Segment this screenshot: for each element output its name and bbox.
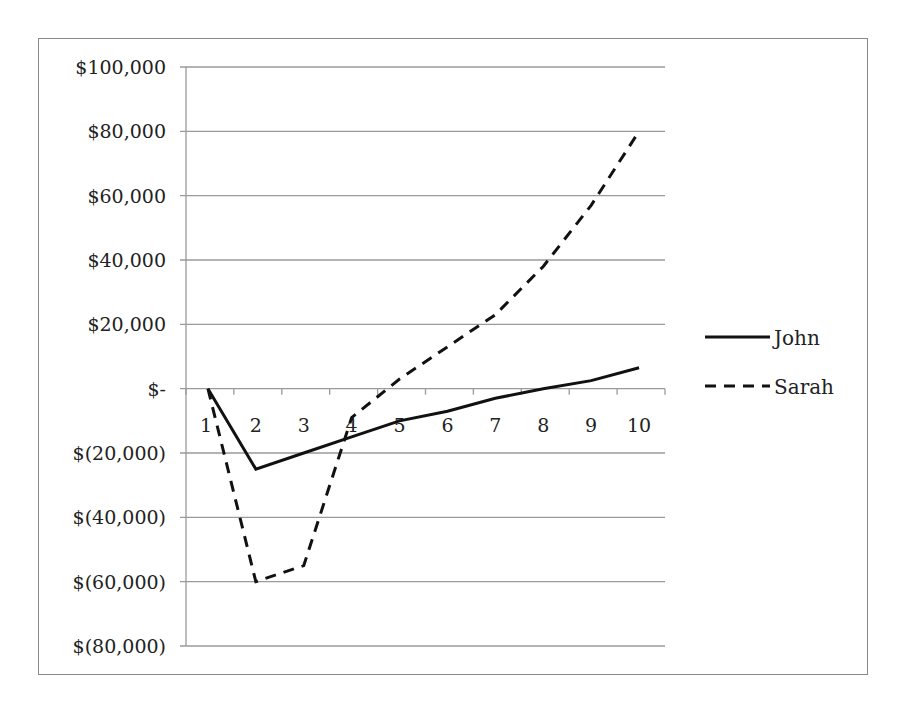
- y-tick-label: $-: [147, 378, 166, 400]
- x-tick-label: 7: [489, 414, 501, 436]
- x-tick-label: 9: [585, 414, 597, 436]
- x-tick-label: 1: [200, 414, 212, 436]
- y-tick-label: $80,000: [87, 120, 166, 142]
- x-tick-label: 6: [441, 414, 453, 436]
- x-tick-label: 3: [298, 414, 310, 436]
- x-tick-label: 8: [537, 414, 549, 436]
- x-axis: 12345678910: [186, 389, 665, 436]
- y-tick-label: $40,000: [87, 249, 166, 271]
- x-tick-label: 2: [250, 414, 262, 436]
- x-tick-label: 10: [627, 414, 651, 436]
- legend-john-label: John: [772, 326, 820, 350]
- y-tick-label: $(20,000): [73, 442, 166, 464]
- series-line-sarah: [208, 131, 639, 581]
- y-tick-label: $(40,000): [73, 506, 166, 528]
- line-chart: $100,000$80,000$60,000$40,000$20,000$-$(…: [0, 0, 905, 711]
- y-tick-label: $(60,000): [73, 571, 166, 593]
- gridlines: [180, 67, 665, 646]
- y-tick-label: $60,000: [87, 185, 166, 207]
- y-tick-label: $20,000: [87, 313, 166, 335]
- y-tick-label: $100,000: [75, 56, 166, 78]
- legend-sarah-label: Sarah: [774, 375, 834, 399]
- legend: John Sarah: [705, 326, 834, 399]
- series-lines: [208, 131, 639, 581]
- x-tick-label: 5: [394, 414, 406, 436]
- series-line-john: [208, 368, 639, 469]
- y-tick-label: $(80,000): [73, 635, 166, 657]
- y-axis: $100,000$80,000$60,000$40,000$20,000$-$(…: [73, 56, 166, 657]
